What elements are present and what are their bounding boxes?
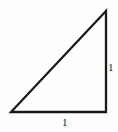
triangle-outline	[11, 11, 106, 112]
side-label-horizontal-leg: 1	[62, 117, 68, 128]
right-triangle-shape	[0, 0, 118, 132]
geometry-figure: 1 1	[0, 0, 118, 132]
side-label-vertical-leg: 1	[108, 62, 114, 73]
